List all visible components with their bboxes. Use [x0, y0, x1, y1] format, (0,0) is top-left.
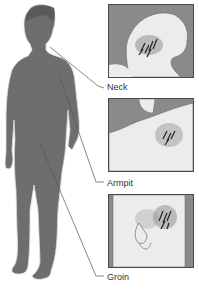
groin-inset-panel [108, 194, 194, 268]
neck-inset-panel [108, 4, 194, 78]
body-silhouette [5, 5, 79, 280]
label-neck: Neck [107, 82, 128, 92]
armpit-inset-panel [108, 98, 194, 172]
label-armpit: Armpit [107, 178, 133, 188]
armpit-inset-illustration [109, 99, 193, 171]
neck-inset-illustration [109, 5, 193, 77]
groin-inset-illustration [109, 195, 193, 267]
label-groin: Groin [107, 272, 129, 282]
